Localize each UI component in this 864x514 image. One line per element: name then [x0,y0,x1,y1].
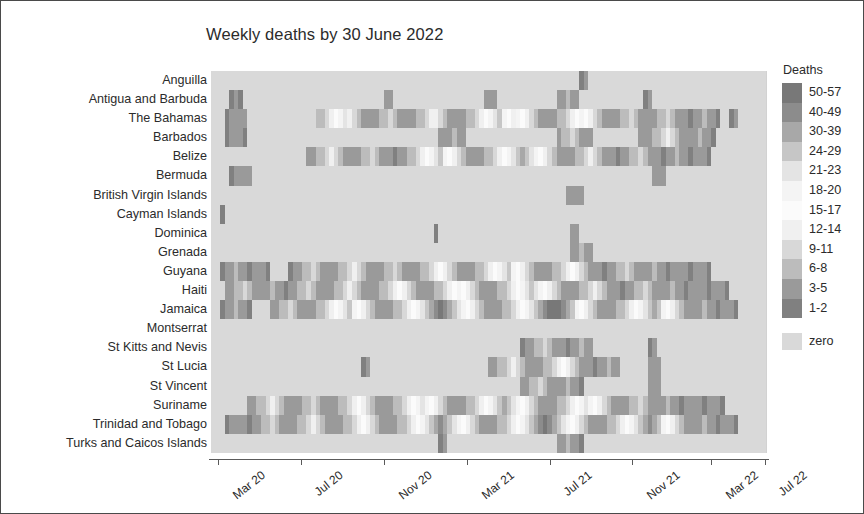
legend-swatch [782,240,802,260]
heatmap-cell [761,71,766,90]
y-axis-label: Grenada [11,243,207,262]
heatmap-row [211,109,767,128]
y-axis-label: Trinidad and Tobago [11,415,207,434]
heatmap-row [211,166,767,185]
legend-label: 18-20 [809,181,841,201]
y-axis-label: Turks and Caicos Islands [11,434,207,453]
heatmap-cell [761,319,766,338]
x-axis-tick-label: Jul 21 [561,468,595,499]
y-axis-label: Bermuda [11,166,207,185]
y-axis-label: Montserrat [11,319,207,338]
legend-row: 12-14 [782,220,860,240]
legend-swatch [782,299,802,319]
y-axis-label: Anguilla [11,71,207,90]
heatmap-cell [761,166,766,185]
heatmap-row [211,262,767,281]
legend-label: 6-8 [809,259,827,279]
y-axis-label: St Vincent [11,377,207,396]
heatmap-row [211,243,767,262]
heatmap-cell [761,338,766,357]
heatmap-cell [761,224,766,243]
heatmap-row [211,128,767,147]
legend-swatch [782,142,802,162]
heatmap-row [211,377,767,396]
legend-label: 30-39 [809,122,841,142]
heatmap-cell [761,396,766,415]
legend-label: 24-29 [809,142,841,162]
x-axis-tick-mark [632,459,633,465]
heatmap-plot [211,71,767,453]
heatmap-cell [761,262,766,281]
heatmap-cell [761,377,766,396]
legend-label: 12-14 [809,220,841,240]
legend-row: 6-8 [782,259,860,279]
page-title: Weekly deaths by 30 June 2022 [206,25,443,44]
x-axis-tick-mark [301,459,302,465]
x-axis-tick-label: Mar 21 [479,468,517,502]
heatmap-row [211,205,767,224]
legend-label: 21-23 [809,161,841,181]
legend-bins: 50-5740-4930-3924-2921-2318-2015-1712-14… [782,83,860,318]
heatmap-cell [761,90,766,109]
y-axis-label: Guyana [11,262,207,281]
heatmap-row [211,434,767,453]
legend-row: 9-11 [782,240,860,260]
y-axis-label: Haiti [11,281,207,300]
y-axis-label: Belize [11,147,207,166]
legend-zero-swatch [782,333,802,350]
x-axis-tick-mark [467,459,468,465]
legend-row: 18-20 [782,181,860,201]
heatmap-cell [761,186,766,205]
legend-swatch [782,161,802,181]
chart-figure: Weekly deaths by 30 June 2022 AnguillaAn… [0,0,864,514]
x-axis-tick-label: Nov 20 [397,468,436,502]
heatmap-row [211,415,767,434]
heatmap-cell [761,243,766,262]
y-axis-label: Jamaica [11,300,207,319]
legend-swatch [782,279,802,299]
heatmap-cell [761,300,766,319]
heatmap-cell [761,357,766,376]
y-axis: AnguillaAntigua and BarbudaThe BahamasBa… [11,71,207,453]
y-axis-label: Dominica [11,224,207,243]
legend-row: 40-49 [782,103,860,123]
y-axis-label: British Virgin Islands [11,186,207,205]
heatmap-cell [761,205,766,224]
legend-label: 40-49 [809,103,841,123]
heatmap-cell [761,109,766,128]
legend-row: 24-29 [782,142,860,162]
heatmap-row [211,357,767,376]
legend-label: 15-17 [809,201,841,221]
legend-label: 50-57 [809,83,841,103]
legend-title: Deaths [783,63,860,77]
x-axis-tick-mark [765,459,766,465]
legend-swatch [782,259,802,279]
y-axis-label: Cayman Islands [11,205,207,224]
heatmap-cell [761,415,766,434]
x-axis-tick-label: Mar 20 [230,468,268,502]
y-axis-label: St Kitts and Nevis [11,338,207,357]
legend-row: 1-2 [782,299,860,319]
legend-zero-row: zero [782,332,860,352]
heatmap-row [211,71,767,90]
heatmap-cell [761,128,766,147]
x-axis-tick-label: Jul 20 [312,468,346,499]
x-axis-tick-mark [218,459,219,465]
heatmap-cell [761,281,766,300]
x-axis-tick-mark [384,459,385,465]
legend-label: 1-2 [809,299,827,319]
legend-swatch [782,201,802,221]
legend-zero-label: zero [809,332,834,351]
legend-swatch [782,122,802,142]
legend-label: 9-11 [809,240,833,260]
legend-swatch [782,181,802,201]
heatmap-row [211,281,767,300]
x-axis-tick-mark [550,459,551,465]
legend-row: 15-17 [782,201,860,221]
legend-row: 30-39 [782,122,860,142]
legend-row: 21-23 [782,161,860,181]
x-axis-tick-label: Mar 22 [723,468,761,502]
heatmap-row [211,186,767,205]
legend-row: 3-5 [782,279,860,299]
heatmap-row [211,300,767,319]
